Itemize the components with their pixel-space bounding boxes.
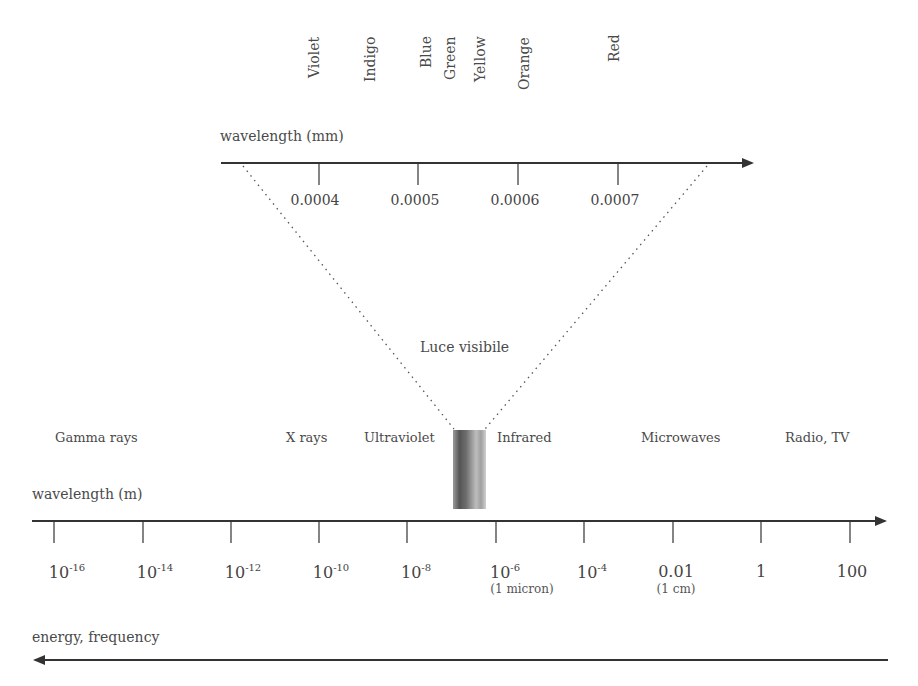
tick-exponent: -12: [245, 562, 261, 573]
top-tick-label: 0.0005: [391, 192, 440, 208]
color-label-violet: Violet: [306, 37, 322, 78]
energy-axis-label: energy, frequency: [32, 629, 159, 645]
region-infrared: Infrared: [497, 430, 552, 445]
region-microwaves: Microwaves: [641, 430, 720, 445]
color-label-orange: Orange: [516, 37, 532, 90]
tick-base: 10: [401, 563, 421, 582]
bottom-tick-label: 10-6: [490, 562, 520, 582]
tick-base: 1: [756, 562, 766, 581]
bottom-tick-label: 100: [837, 562, 868, 581]
bottom-axis-label: wavelength (m): [32, 486, 143, 502]
color-label-yellow: Yellow: [472, 36, 488, 82]
visible-spectrum-bar: [453, 430, 486, 509]
tick-base: 100: [837, 562, 868, 581]
bottom-tick-label: 10-4: [577, 562, 607, 582]
bottom-tick-label: 10-12: [225, 562, 261, 582]
tick-base: 10: [577, 563, 597, 582]
top-tick-label: 0.0006: [491, 192, 540, 208]
color-label-indigo: Indigo: [362, 37, 378, 82]
top-axis-label: wavelength (mm): [220, 128, 344, 144]
tick-base: 0.01: [658, 562, 694, 581]
bottom-tick-label: 10-8: [401, 562, 431, 582]
bottom-axis-ticks: [54, 521, 850, 543]
color-label-blue: Blue: [418, 36, 434, 68]
bottom-tick-label: 10-10: [313, 562, 349, 582]
top-tick-label: 0.0004: [291, 192, 340, 208]
bottom-tick-label: 1: [756, 562, 766, 581]
tick-base: 10: [137, 563, 157, 582]
tick-base: 10: [313, 563, 333, 582]
color-label-green: Green: [442, 37, 458, 80]
tick-note-cm: (1 cm): [657, 582, 696, 596]
tick-exponent: -8: [421, 562, 431, 573]
visible-light-label: Luce visibile: [420, 339, 509, 355]
tick-base: 10: [225, 563, 245, 582]
bottom-tick-label: 0.01: [658, 562, 694, 581]
region-x-rays: X rays: [286, 430, 327, 445]
tick-exponent: -16: [69, 562, 85, 573]
bottom-tick-label: 10-16: [49, 562, 85, 582]
color-label-red: Red: [606, 34, 622, 62]
tick-note-micron: (1 micron): [490, 582, 553, 596]
tick-exponent: -4: [597, 562, 607, 573]
tick-base: 10: [49, 563, 69, 582]
tick-exponent: -6: [510, 562, 520, 573]
region-ultraviolet: Ultraviolet: [364, 430, 435, 445]
tick-base: 10: [490, 563, 510, 582]
region-gamma-rays: Gamma rays: [55, 430, 138, 445]
bottom-tick-label: 10-14: [137, 562, 173, 582]
tick-exponent: -14: [157, 562, 173, 573]
top-axis-ticks: [319, 163, 618, 185]
region-radio-tv: Radio, TV: [785, 430, 849, 445]
top-tick-label: 0.0007: [591, 192, 640, 208]
tick-exponent: -10: [333, 562, 349, 573]
